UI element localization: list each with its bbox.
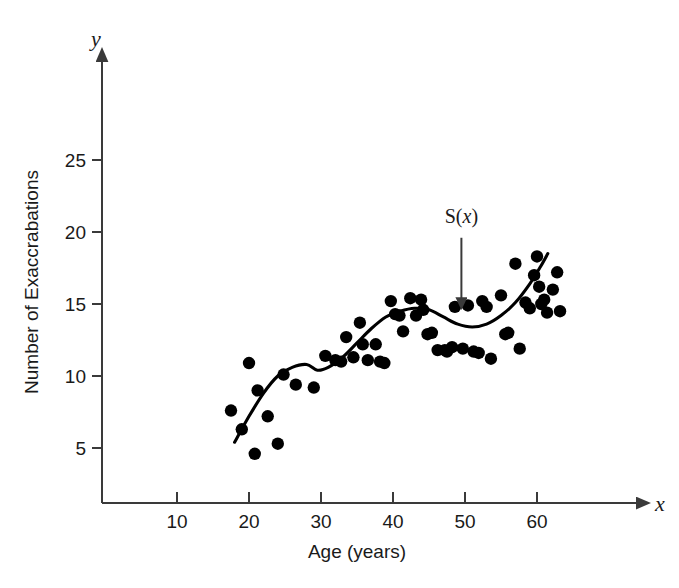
y-axis-title: Number of Exaccrabations [21,170,42,394]
data-point [472,347,484,359]
scatter-plot-figure: y 25 20 15 10 5 Number of Exaccrabations… [0,0,679,588]
x-axis-title: Age (years) [308,541,406,562]
data-point [551,266,563,278]
curve-annotation: S(x) [445,205,478,299]
data-point [502,327,514,339]
plot-canvas: y 25 20 15 10 5 Number of Exaccrabations… [0,0,679,588]
smoothing-curve [235,254,548,443]
data-point [340,331,352,343]
y-tick-group: 25 20 15 10 5 [65,150,102,459]
x-tick-label-10: 10 [166,511,187,532]
data-point [495,289,507,301]
data-point [547,283,559,295]
y-tick-label-15: 15 [65,294,86,315]
curve-annotation-label: S(x) [445,205,478,228]
data-point [397,325,409,337]
data-point [426,327,438,339]
data-point [272,437,284,449]
data-point [541,306,553,318]
y-tick-label-20: 20 [65,222,86,243]
data-point [404,292,416,304]
scatter-points-layer [225,250,566,460]
data-point [462,299,474,311]
data-point [457,342,469,354]
data-point [362,354,374,366]
data-point [354,317,366,329]
data-point [225,404,237,416]
x-tick-label-40: 40 [382,511,403,532]
data-point [524,302,536,314]
x-axis: x 10 20 30 40 50 60 Age (years) [102,491,665,562]
data-point [385,295,397,307]
data-point [449,301,461,313]
data-point [290,378,302,390]
data-point [509,257,521,269]
data-point [370,338,382,350]
y-tick-label-5: 5 [75,438,86,459]
data-point [378,357,390,369]
data-point [554,305,566,317]
data-point [538,293,550,305]
y-tick-label-25: 25 [65,150,86,171]
data-point [262,410,274,422]
data-point [533,281,545,293]
y-tick-label-10: 10 [65,366,86,387]
x-tick-label-30: 30 [310,511,331,532]
data-point [480,301,492,313]
data-point [531,250,543,262]
y-axis: y 25 20 15 10 5 Number of Exaccrabations [21,26,102,503]
data-point [514,342,526,354]
x-tick-group: 10 20 30 40 50 60 [166,492,547,532]
data-point [446,341,458,353]
x-axis-variable-label: x [654,491,665,516]
data-point [249,448,261,460]
y-axis-variable-label: y [89,26,101,51]
data-point [243,357,255,369]
data-point [485,353,497,365]
data-point [308,381,320,393]
x-tick-label-50: 50 [454,511,475,532]
x-tick-label-60: 60 [526,511,547,532]
x-tick-label-20: 20 [238,511,259,532]
